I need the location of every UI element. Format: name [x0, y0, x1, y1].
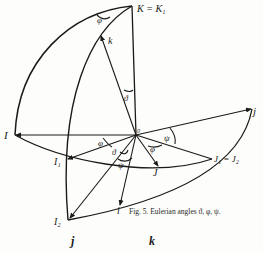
arc-K-I	[15, 6, 132, 135]
label-J1-J2: J₁ = J₂	[214, 154, 239, 164]
vector-j	[136, 109, 251, 135]
angle-phi-top: φ	[97, 15, 102, 25]
label-I2: I₂	[53, 216, 61, 227]
diagram-canvas: K = K₁ k I j 0 I₁ J J₁ = J₂ i I₂ φ ϑ ψ φ…	[0, 0, 263, 254]
arc-K-I2	[66, 6, 132, 220]
angle-arc-psi-right	[170, 128, 175, 144]
label-i: i	[117, 205, 120, 216]
angle-psi-mid: ψ	[118, 160, 124, 170]
angle-theta-top: ϑ	[124, 94, 129, 103]
angle-phi-left: φ	[98, 138, 103, 148]
angle-arc-theta-top	[124, 90, 133, 92]
angle-phi-mid: φ	[150, 144, 155, 154]
line-J1	[136, 135, 212, 159]
euler-angles-figure: K = K₁ k I j 0 I₁ J J₁ = J₂ i I₂ φ ϑ ψ φ…	[0, 0, 263, 254]
label-I: I	[3, 129, 9, 141]
vectors	[16, 6, 251, 218]
figure-caption: Fig. 5. Eulerian angles ϑ, φ, ψ.	[129, 207, 221, 216]
label-k: k	[108, 35, 113, 46]
footer-label-j: j	[69, 234, 75, 248]
angle-psi-right: ψ	[164, 133, 170, 143]
label-J: J	[153, 167, 158, 178]
angle-theta-mid: ϑ	[112, 148, 117, 157]
vector-k	[101, 36, 136, 135]
axis-K	[132, 6, 136, 135]
label-K-K1: K = K₁	[136, 3, 166, 14]
label-origin: 0	[137, 128, 140, 134]
arc-j-I2	[68, 109, 252, 220]
footer-label-k: k	[149, 234, 155, 248]
label-I1: I₁	[53, 156, 61, 167]
